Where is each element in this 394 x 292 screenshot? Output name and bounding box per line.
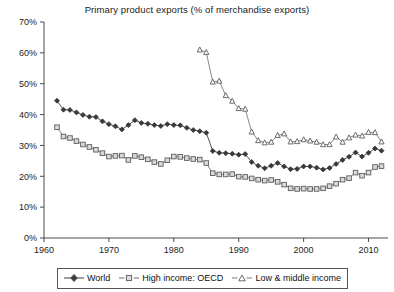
y-tick-label: 70%	[19, 17, 37, 27]
data-point	[334, 181, 339, 186]
series-line	[57, 101, 382, 170]
x-tick-label: 1960	[34, 245, 54, 255]
legend-label-world: World	[87, 274, 110, 283]
data-point	[230, 172, 235, 177]
data-point	[360, 173, 365, 178]
data-point	[184, 125, 189, 130]
plot-area: 0%10%20%30%40%50%60%70% 1960197019801990…	[0, 0, 394, 262]
data-point	[217, 150, 222, 155]
data-point	[178, 123, 183, 128]
data-point	[139, 155, 144, 160]
data-point	[301, 164, 306, 169]
chart-svg: 0%10%20%30%40%50%60%70% 1960197019801990…	[0, 0, 394, 262]
data-point	[106, 122, 111, 127]
data-point	[74, 110, 79, 115]
data-point	[74, 139, 79, 144]
y-tick-label: 60%	[19, 48, 37, 58]
data-point	[139, 120, 144, 125]
data-point	[295, 187, 300, 192]
data-point	[204, 130, 209, 135]
data-point	[165, 158, 170, 163]
x-tick-label: 1990	[229, 245, 249, 255]
data-point	[67, 107, 72, 112]
data-point	[113, 124, 118, 129]
data-point	[373, 146, 378, 151]
data-point	[172, 154, 177, 159]
data-point	[340, 177, 345, 182]
data-point	[262, 166, 267, 171]
data-point	[340, 157, 345, 162]
data-point	[230, 151, 235, 156]
data-point	[146, 157, 151, 162]
data-point	[334, 161, 339, 166]
data-point	[159, 162, 164, 167]
data-point	[333, 134, 338, 139]
data-point	[249, 129, 254, 134]
data-point	[80, 112, 85, 117]
data-point	[133, 154, 138, 159]
data-point	[366, 150, 371, 155]
data-point	[379, 148, 384, 153]
y-tick-label: 30%	[19, 141, 37, 151]
chart-figure: Primary product exports (% of merchandis…	[0, 0, 394, 292]
data-point	[81, 142, 86, 147]
data-point	[308, 164, 313, 169]
data-point	[275, 161, 280, 166]
legend-key-low-middle-income-icon	[232, 273, 252, 283]
data-point	[360, 154, 365, 159]
data-point	[68, 136, 73, 141]
data-point	[217, 78, 222, 83]
data-point	[308, 187, 313, 192]
data-point	[107, 154, 112, 159]
series-low-middle-income	[197, 47, 384, 147]
data-point	[165, 122, 170, 127]
data-point	[152, 160, 157, 165]
data-point	[93, 115, 98, 120]
x-axis-ticks: 196019701980199020002010	[34, 238, 379, 255]
data-point	[217, 172, 222, 177]
data-point	[210, 171, 215, 176]
data-point	[100, 119, 105, 124]
data-point	[249, 176, 254, 181]
data-point	[223, 151, 228, 156]
data-point	[288, 186, 293, 191]
data-point	[94, 147, 99, 152]
data-point	[379, 164, 384, 169]
data-point	[171, 123, 176, 128]
series-line	[57, 127, 382, 189]
legend-item-high-income-oecd[interactable]: High income: OECD	[119, 273, 223, 283]
data-point	[236, 174, 241, 179]
data-point	[61, 134, 66, 139]
data-point	[197, 47, 202, 52]
y-tick-label: 50%	[19, 79, 37, 89]
data-point	[191, 128, 196, 133]
data-point	[288, 167, 293, 172]
data-point	[119, 127, 124, 132]
data-point	[321, 186, 326, 191]
x-tick-label: 2010	[359, 245, 379, 255]
data-point	[282, 131, 287, 136]
series-world	[54, 98, 384, 172]
data-point	[100, 151, 105, 156]
data-point	[314, 187, 319, 192]
data-point	[113, 154, 118, 159]
data-point	[347, 176, 352, 181]
legend-item-world[interactable]: World	[64, 273, 110, 283]
data-point	[87, 114, 92, 119]
series-layer	[54, 47, 384, 191]
y-tick-label: 40%	[19, 110, 37, 120]
data-point	[145, 121, 150, 126]
data-point	[184, 156, 189, 161]
data-point	[353, 150, 358, 155]
data-point	[236, 152, 241, 157]
legend-item-low-middle-income[interactable]: Low & middle income	[232, 273, 341, 283]
data-point	[223, 172, 228, 177]
x-tick-label: 1980	[164, 245, 184, 255]
data-point	[301, 186, 306, 191]
data-point	[158, 123, 163, 128]
data-point	[152, 123, 157, 128]
data-point	[314, 165, 319, 170]
legend-key-world-icon	[64, 273, 84, 283]
data-point	[347, 154, 352, 159]
data-point	[282, 182, 287, 187]
